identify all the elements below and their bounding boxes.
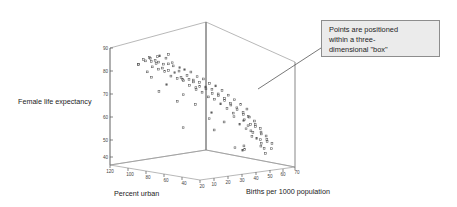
data-point <box>223 98 225 100</box>
data-point <box>188 78 190 80</box>
data-point <box>240 104 242 106</box>
x-axis-title: Births per 1000 population <box>246 187 330 196</box>
data-point <box>202 78 204 80</box>
data-point <box>146 71 148 73</box>
data-point <box>199 86 201 88</box>
x-tick-label: 20 <box>225 180 231 185</box>
data-point <box>137 63 139 65</box>
data-point <box>264 152 266 154</box>
data-point <box>151 66 153 68</box>
data-point <box>190 71 192 73</box>
data-point <box>239 123 241 125</box>
data-point <box>174 72 176 74</box>
data-point <box>260 131 262 133</box>
data-point <box>251 135 253 137</box>
chart-container: 90 80 70 60 50 40 120 100 80 60 40 20 <box>0 0 457 207</box>
annotation-callout: Points are positioned within a three- di… <box>321 20 440 57</box>
data-point <box>158 61 160 63</box>
data-point <box>150 60 152 62</box>
z-axis-title: Female life expectancy <box>18 97 92 106</box>
data-point <box>166 84 168 86</box>
data-point <box>168 54 170 56</box>
data-point <box>144 60 146 62</box>
box-wireframe <box>110 22 295 180</box>
x-axis-ticks: 10 20 30 40 50 60 70 <box>211 167 300 187</box>
data-point <box>250 130 252 132</box>
x-tick-label: 40 <box>253 176 259 181</box>
data-point <box>182 94 184 96</box>
data-point <box>211 88 213 90</box>
data-point <box>176 77 178 79</box>
data-point <box>158 91 160 93</box>
data-point <box>250 124 252 126</box>
data-point <box>213 129 215 131</box>
data-point <box>199 81 201 83</box>
data-point <box>176 100 178 102</box>
y-tick-label: 100 <box>126 172 134 177</box>
z-tick-label: 60 <box>103 115 109 120</box>
data-point <box>165 57 167 59</box>
x-tick-label: 60 <box>280 172 286 177</box>
data-point <box>252 132 254 134</box>
data-point <box>266 141 268 143</box>
data-point <box>221 90 223 92</box>
x-tick-label: 70 <box>294 170 300 175</box>
data-point <box>208 118 210 120</box>
data-point <box>157 56 159 58</box>
data-point <box>164 71 166 73</box>
data-point <box>178 70 180 72</box>
data-point <box>158 68 160 70</box>
data-point <box>182 79 184 81</box>
z-tick-label: 90 <box>103 46 109 51</box>
data-point <box>265 135 267 137</box>
z-tick-label: 50 <box>103 138 109 143</box>
data-point <box>271 143 273 145</box>
data-points-layer <box>137 54 272 155</box>
data-point <box>260 142 262 144</box>
data-point <box>161 67 163 69</box>
data-point <box>244 149 246 151</box>
data-point <box>234 147 236 149</box>
data-point <box>207 96 209 98</box>
data-point <box>189 84 191 86</box>
data-point <box>271 148 273 150</box>
data-point <box>209 83 211 85</box>
data-point <box>266 139 268 141</box>
data-point <box>142 58 144 60</box>
data-point <box>170 75 172 77</box>
data-point <box>226 108 228 110</box>
x-tick-label: 50 <box>267 174 273 179</box>
data-point <box>255 126 257 128</box>
data-point <box>168 69 170 71</box>
data-point <box>230 104 232 106</box>
data-point <box>211 112 213 114</box>
data-point <box>218 95 220 97</box>
data-point <box>254 120 256 122</box>
y-tick-label: 20 <box>199 184 205 189</box>
data-point <box>230 102 232 104</box>
data-point <box>224 100 226 102</box>
data-point <box>172 65 174 67</box>
data-point <box>254 124 256 126</box>
y-tick-label: 60 <box>163 178 169 183</box>
data-point <box>236 107 238 109</box>
data-point <box>259 128 261 130</box>
data-point <box>151 76 153 78</box>
data-point <box>155 63 157 65</box>
y-axis-title: Percent urban <box>114 189 159 198</box>
data-point <box>242 113 244 115</box>
data-point <box>227 94 229 96</box>
z-tick-label: 80 <box>103 69 109 74</box>
data-point <box>256 137 258 139</box>
data-point <box>247 125 249 127</box>
data-point <box>180 76 182 78</box>
data-point <box>182 127 184 129</box>
data-point <box>236 109 238 111</box>
data-point <box>194 104 196 106</box>
data-point <box>263 147 265 149</box>
data-point <box>220 103 222 105</box>
data-point <box>195 89 197 91</box>
data-point <box>159 55 161 57</box>
data-point <box>186 75 188 77</box>
z-tick-label: 40 <box>103 155 109 160</box>
